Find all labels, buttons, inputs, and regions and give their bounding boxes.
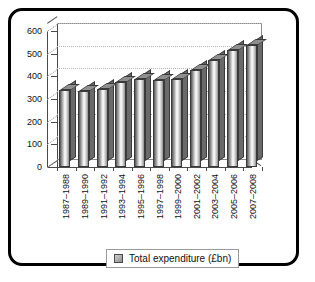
x-axis-tick [113,167,114,171]
x-axis-tick [262,167,263,171]
x-axis-tick [243,167,244,171]
plot-area: 0100200300400500600 [47,23,262,167]
y-axis-tick-label: 100 [27,139,42,149]
y-axis-tick-label: 400 [27,71,42,81]
x-axis-tick-label: 2005–2006 [229,174,239,219]
y-axis-tick [51,76,57,77]
x-axis-tick [169,167,170,171]
y-axis-tick-label: 300 [27,94,42,104]
bar-side-face [257,35,263,161]
bar [171,79,182,167]
bar-side-face [108,79,114,161]
bar-side-face [126,72,132,161]
y-axis-tick-label: 0 [37,162,42,172]
bar-side-face [89,81,95,161]
bar-side-face [201,59,207,161]
bar [78,91,89,167]
bar-front-face [59,90,70,167]
bar [153,80,164,167]
x-axis-tick-label: 1987–1988 [61,174,71,219]
legend-label: Total expenditure (£bn) [129,253,231,264]
x-axis-tick-label: 1989–1990 [80,174,90,219]
chart-frame: 0100200300400500600 1987–19881989–199019… [8,8,299,266]
bar-side-face [164,70,170,161]
x-axis-tick-label: 2001–2002 [192,174,202,219]
y-axis-tick [51,54,57,55]
x-axis-tick [132,167,133,171]
bar-top-face [247,39,267,45]
x-axis-tick [150,167,151,171]
bar [97,89,108,167]
bar-front-face [134,79,145,167]
x-axis-tick [225,167,226,171]
bar [227,50,238,167]
chart-inner: 0100200300400500600 1987–19881989–199019… [11,11,296,263]
bar-front-face [78,91,89,167]
x-axis-tick-label: 2007–2008 [248,174,258,219]
x-axis-tick [76,167,77,171]
y-axis-tick [51,144,57,145]
bar [59,90,70,167]
y-axis-tick [51,31,57,32]
y-axis-tick-label: 200 [27,117,42,127]
x-axis-tick-label: 1999–2000 [173,174,183,219]
bar-side-face [182,69,188,161]
bar [134,79,145,167]
bar [190,70,201,167]
x-axis-tick-label: 1997–1998 [155,174,165,219]
bar-front-face [97,89,108,167]
bar-side-face [238,40,244,161]
depth-edge-top [47,16,58,24]
x-axis-tick [187,167,188,171]
bar-top-face [135,73,155,79]
bar-front-face [115,82,126,167]
bar-side-face [145,69,151,161]
bar-front-face [190,70,201,167]
bar-side-face [70,80,76,161]
x-axis-tick [206,167,207,171]
x-axis-tick-label: 1995–1996 [136,174,146,219]
bar-front-face [153,80,164,167]
x-axis-tick [57,167,58,171]
y-axis-back-line [57,23,58,167]
legend-swatch-icon [114,254,123,263]
x-axis-tick [94,167,95,171]
x-axis-tick-label: 1991–1992 [99,174,109,219]
x-axis-tick-label: 2003–2004 [210,174,220,219]
gridline [57,23,262,24]
y-axis-tick-label: 500 [27,49,42,59]
y-axis-tick-label: 600 [27,26,42,36]
bar-front-face [246,45,257,167]
x-axis-tick-label: 1993–1994 [117,174,127,219]
bar-front-face [171,79,182,167]
bar-front-face [208,60,219,167]
bar-side-face [219,50,225,161]
bar [208,60,219,167]
bar [246,45,257,167]
chart-legend: Total expenditure (£bn) [106,249,239,268]
bar [115,82,126,167]
y-axis-tick [51,99,57,100]
bar-top-face [60,84,80,90]
y-axis-tick [51,122,57,123]
bar-front-face [227,50,238,167]
